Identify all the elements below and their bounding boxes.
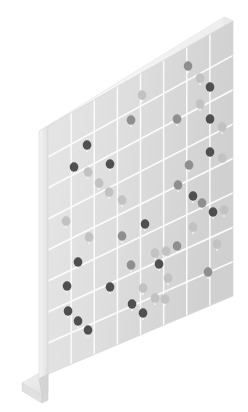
marker-dot-mid[interactable] [173,241,182,250]
marker-dot-light[interactable] [220,205,229,214]
marker-dot-mid[interactable] [127,260,136,269]
marker-dot-light[interactable] [164,273,173,282]
marker-dot-mid[interactable] [174,180,183,189]
marker-dot-light[interactable] [196,99,205,108]
marker-dot-light[interactable] [189,222,198,231]
marker-dot-dark[interactable] [106,159,115,168]
board-left-thickness [39,126,48,395]
marker-dot-mid[interactable] [204,267,213,276]
marker-dot-light[interactable] [161,294,170,303]
board-side-face [39,126,48,379]
marker-dot-dark[interactable] [141,219,150,228]
marker-dot-dark[interactable] [128,299,137,308]
marker-dot-light[interactable] [162,246,171,255]
marker-dot-light[interactable] [138,90,147,99]
marker-dot-mid[interactable] [185,160,194,169]
marker-dot-dark[interactable] [206,114,215,123]
marker-dot-light[interactable] [213,239,222,248]
marker-dot-light[interactable] [151,248,160,257]
marker-dot-mid[interactable] [173,114,182,123]
marker-dot-light[interactable] [62,216,71,225]
marker-dot-dark[interactable] [64,306,73,315]
marker-dot-dark[interactable] [209,207,218,216]
marker-dot-mid[interactable] [118,231,127,240]
marker-dot-light[interactable] [196,73,205,82]
marker-dot-light[interactable] [118,195,127,204]
marker-dot-dark[interactable] [155,259,164,268]
marker-dot-mid[interactable] [127,115,136,124]
marker-dot-dark[interactable] [63,281,72,290]
marker-dot-dark[interactable] [106,282,115,291]
marker-dot-dark[interactable] [74,257,83,266]
illustration-canvas [0,0,248,412]
marker-dot-light[interactable] [84,167,93,176]
marker-dot-light[interactable] [139,283,148,292]
marker-dot-light[interactable] [218,153,227,162]
marker-dot-dark[interactable] [189,191,198,200]
marker-dot-dark[interactable] [83,140,92,149]
marker-dot-mid[interactable] [184,61,193,70]
marker-dot-light[interactable] [85,232,94,241]
marker-dot-dark[interactable] [84,325,93,334]
marker-dot-dark[interactable] [74,316,83,325]
marker-dot-mid[interactable] [198,198,207,207]
marker-dot-dark[interactable] [206,147,215,156]
marker-dot-light[interactable] [105,187,114,196]
marker-dot-dark[interactable] [206,82,215,91]
grid-panel [44,21,236,374]
marker-dot-light[interactable] [218,122,227,131]
marker-dot-dark[interactable] [70,162,79,171]
marker-dot-dark[interactable] [139,308,148,317]
isometric-board-illustration [0,0,248,412]
marker-dot-light[interactable] [151,293,160,302]
marker-dot-light[interactable] [95,178,104,187]
